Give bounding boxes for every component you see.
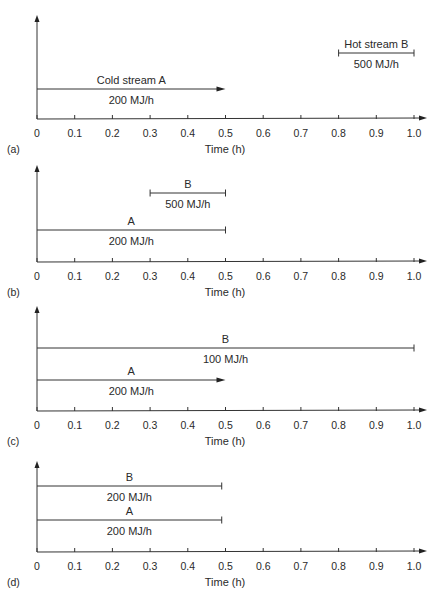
stream-arrow-icon xyxy=(217,378,226,383)
x-tick-label: 0.8 xyxy=(331,419,346,431)
x-tick-label: 0.5 xyxy=(218,419,233,431)
panel-b: 00.10.20.30.40.50.60.70.80.91.0Time (h)(… xyxy=(7,165,427,298)
x-axis-title: Time (h) xyxy=(205,435,246,447)
x-tick-label: 0.6 xyxy=(256,419,271,431)
stream-name-label: Cold stream A xyxy=(97,74,167,86)
x-tick-label: 0.9 xyxy=(369,419,384,431)
stream-b: B100 MJ/h xyxy=(37,333,414,365)
x-tick-label: 0.5 xyxy=(218,270,233,282)
x-axis-arrow-icon xyxy=(419,549,427,554)
stream-rate-label: 200 MJ/h xyxy=(107,525,152,537)
x-tick-label: 0.7 xyxy=(294,560,309,572)
x-tick-label: 1.0 xyxy=(407,419,422,431)
x-tick-label: 0.4 xyxy=(180,560,195,572)
stream-a: A200 MJ/h xyxy=(37,215,226,247)
x-axis-line xyxy=(37,118,421,119)
x-tick-label: 0.1 xyxy=(67,127,82,139)
panel-a: 00.10.20.30.40.50.60.70.80.91.0Time (h)(… xyxy=(7,15,427,155)
x-tick-label: 0.1 xyxy=(67,560,82,572)
x-tick-label: 0 xyxy=(34,419,40,431)
stream-name-label: B xyxy=(222,333,229,345)
y-axis-arrow-icon xyxy=(35,461,40,468)
stream-arrow-icon xyxy=(217,87,226,92)
x-tick-label: 0.3 xyxy=(143,560,158,572)
y-axis-arrow-icon xyxy=(35,165,40,172)
x-axis-title: Time (h) xyxy=(205,286,246,298)
x-axis-arrow-icon xyxy=(419,259,427,264)
stream-name-label: A xyxy=(128,365,136,377)
x-tick-label: 0.6 xyxy=(256,127,271,139)
stream-hot-stream-b: Hot stream B500 MJ/h xyxy=(339,38,414,70)
y-axis-arrow-icon xyxy=(35,306,40,313)
panel-label: (d) xyxy=(7,576,20,588)
x-tick-label: 0.6 xyxy=(256,560,271,572)
x-axis-line xyxy=(37,261,421,262)
x-tick-label: 0.6 xyxy=(256,270,271,282)
x-tick-label: 0.9 xyxy=(369,560,384,572)
stream-b: B200 MJ/h xyxy=(37,471,222,503)
panel-d: 00.10.20.30.40.50.60.70.80.91.0Time (h)(… xyxy=(7,461,427,588)
x-tick-label: 0.5 xyxy=(218,560,233,572)
x-tick-label: 0.2 xyxy=(105,127,120,139)
x-tick-label: 1.0 xyxy=(407,270,422,282)
x-tick-label: 0.9 xyxy=(369,127,384,139)
x-tick-label: 0.1 xyxy=(67,419,82,431)
x-tick-label: 0.4 xyxy=(180,419,195,431)
x-tick-label: 1.0 xyxy=(407,127,422,139)
x-tick-label: 0.7 xyxy=(294,419,309,431)
x-tick-label: 0.1 xyxy=(67,270,82,282)
x-tick-label: 0.3 xyxy=(143,419,158,431)
stream-name-label: A xyxy=(128,215,136,227)
x-tick-label: 0.5 xyxy=(218,127,233,139)
x-axis-line xyxy=(37,410,421,411)
x-tick-label: 1.0 xyxy=(407,560,422,572)
x-tick-label: 0.9 xyxy=(369,270,384,282)
x-tick-label: 0.2 xyxy=(105,270,120,282)
stream-name-label: B xyxy=(184,178,191,190)
stream-b: B500 MJ/h xyxy=(150,178,225,210)
x-tick-label: 0.8 xyxy=(331,270,346,282)
x-axis-title: Time (h) xyxy=(205,143,246,155)
x-tick-label: 0 xyxy=(34,560,40,572)
x-tick-label: 0.7 xyxy=(294,270,309,282)
stream-rate-label: 200 MJ/h xyxy=(107,491,152,503)
x-tick-label: 0.8 xyxy=(331,127,346,139)
panel-label: (a) xyxy=(7,143,20,155)
x-axis-arrow-icon xyxy=(419,116,427,121)
stream-cold-stream-a: Cold stream A200 MJ/h xyxy=(37,74,226,106)
x-axis-title: Time (h) xyxy=(205,576,246,588)
x-tick-label: 0.2 xyxy=(105,419,120,431)
stream-name-label: A xyxy=(126,505,134,517)
x-axis-arrow-icon xyxy=(419,408,427,413)
x-tick-label: 0.3 xyxy=(143,127,158,139)
stream-rate-label: 500 MJ/h xyxy=(354,58,399,70)
stream-rate-label: 200 MJ/h xyxy=(109,385,154,397)
stream-rate-label: 500 MJ/h xyxy=(165,198,210,210)
stream-a: A200 MJ/h xyxy=(37,365,226,397)
x-axis-line xyxy=(37,551,421,552)
stream-rate-label: 200 MJ/h xyxy=(109,235,154,247)
x-tick-label: 0 xyxy=(34,127,40,139)
stream-rate-label: 100 MJ/h xyxy=(203,353,248,365)
x-tick-label: 0 xyxy=(34,270,40,282)
x-tick-label: 0.4 xyxy=(180,127,195,139)
x-tick-label: 0.3 xyxy=(143,270,158,282)
stream-a: A200 MJ/h xyxy=(37,505,222,537)
x-tick-label: 0.8 xyxy=(331,560,346,572)
x-tick-label: 0.7 xyxy=(294,127,309,139)
x-tick-label: 0.2 xyxy=(105,560,120,572)
stream-name-label: B xyxy=(126,471,133,483)
x-tick-label: 0.4 xyxy=(180,270,195,282)
stream-timeline-figure: 00.10.20.30.40.50.60.70.80.91.0Time (h)(… xyxy=(0,0,440,597)
stream-name-label: Hot stream B xyxy=(344,38,408,50)
panel-c: 00.10.20.30.40.50.60.70.80.91.0Time (h)(… xyxy=(7,306,427,447)
panel-label: (c) xyxy=(7,435,19,447)
y-axis-arrow-icon xyxy=(35,15,40,22)
stream-rate-label: 200 MJ/h xyxy=(109,94,154,106)
panel-label: (b) xyxy=(7,286,20,298)
